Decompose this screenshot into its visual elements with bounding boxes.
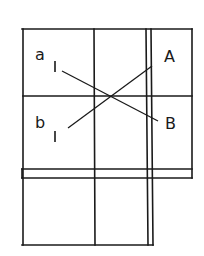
inner-vertical-line bbox=[94, 29, 95, 245]
label-A: A bbox=[164, 47, 175, 66]
label-B: B bbox=[165, 114, 176, 133]
label-a: a bbox=[35, 45, 45, 64]
grid-diagram: a b A B bbox=[0, 0, 204, 256]
double-vertical-left bbox=[146, 29, 148, 245]
label-b: b bbox=[35, 113, 45, 132]
double-vertical-right bbox=[151, 29, 153, 245]
diagonal-b-to-A bbox=[68, 66, 152, 128]
